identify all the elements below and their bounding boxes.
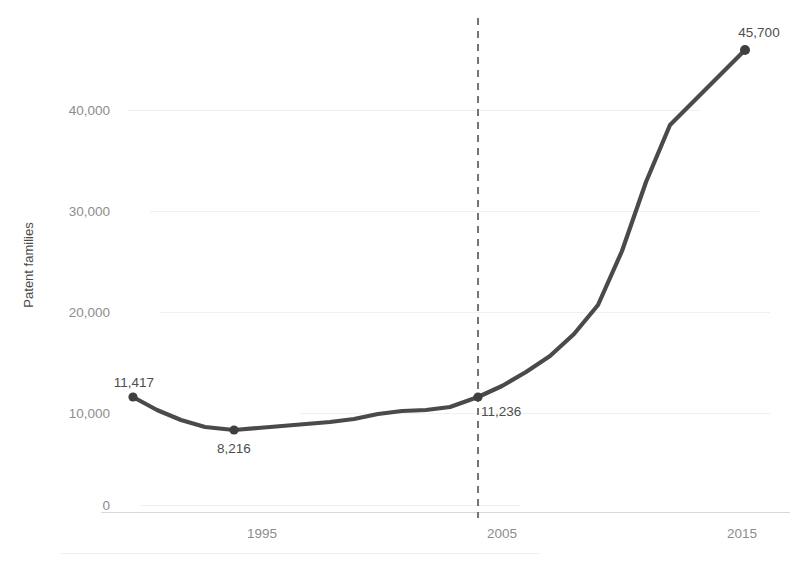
x-axis-tick-labels: 1995 2005 2015 xyxy=(247,526,757,541)
data-label-45700: 45,700 xyxy=(738,25,779,40)
series-line-patent-families xyxy=(133,50,745,430)
y-tick-label-10000: 10,000 xyxy=(69,406,110,421)
y-axis-title: Patent families xyxy=(21,222,36,308)
data-point-2005 xyxy=(473,392,482,401)
y-tick-label-20000: 20,000 xyxy=(69,305,110,320)
y-tick-label-0: 0 xyxy=(102,498,110,513)
y-tick-label-40000: 40,000 xyxy=(69,103,110,118)
data-label-8216: 8,216 xyxy=(217,441,251,456)
data-point-1994 xyxy=(229,425,238,434)
chart-container: 40,000 30,000 20,000 10,000 0 Patent fam… xyxy=(0,0,798,563)
data-label-11236: 11,236 xyxy=(481,404,521,419)
line-chart: 40,000 30,000 20,000 10,000 0 Patent fam… xyxy=(0,0,798,563)
x-tick-label-2005: 2005 xyxy=(487,526,517,541)
data-label-11417: 11,417 xyxy=(114,375,154,390)
series-markers xyxy=(128,45,750,435)
y-tick-label-30000: 30,000 xyxy=(69,204,110,219)
data-point-labels: 11,417 8,216 11,236 45,700 xyxy=(114,25,780,456)
x-tick-label-1995: 1995 xyxy=(247,526,277,541)
data-point-1991 xyxy=(128,392,137,401)
y-axis-tick-labels: 40,000 30,000 20,000 10,000 0 xyxy=(69,103,110,513)
scan-artifacts xyxy=(60,111,770,554)
data-point-2015 xyxy=(740,45,750,55)
x-tick-label-2015: 2015 xyxy=(727,526,757,541)
